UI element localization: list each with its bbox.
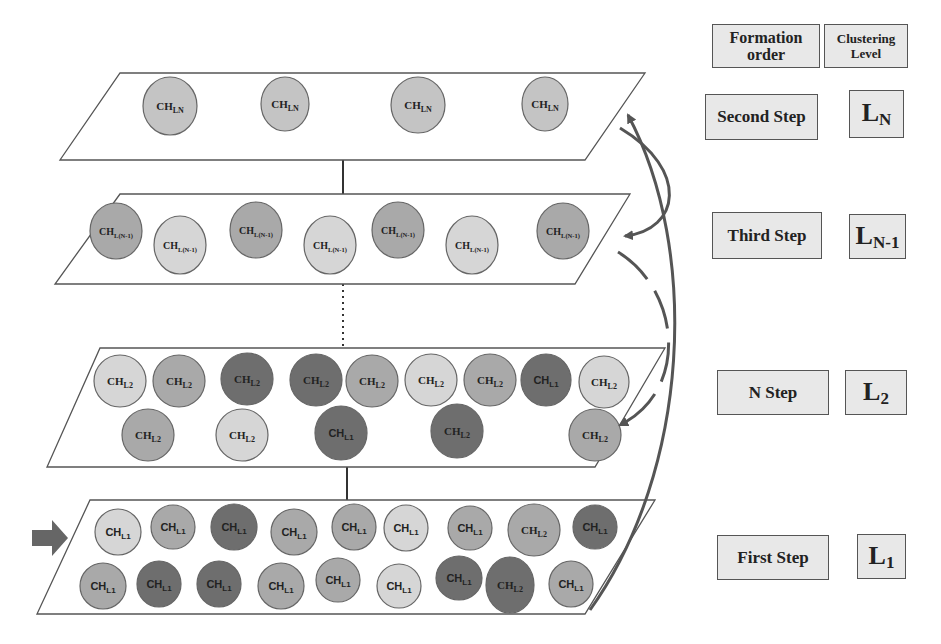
cluster-head-node: CHLN bbox=[391, 77, 445, 133]
cluster-head-node: CHL2 bbox=[346, 355, 398, 407]
step-box-first: First Step bbox=[717, 535, 829, 580]
cluster-head-node: CHL(N-1) bbox=[90, 203, 142, 259]
cluster-head-node: CHL1 bbox=[573, 505, 617, 549]
cluster-layers: CHLNCHLNCHLNCHLNCHL(N-1)CHL(N-1)CHL(N-1)… bbox=[37, 73, 665, 614]
cluster-head-node: CHL1 bbox=[332, 504, 376, 550]
cluster-head-node: CHL2 bbox=[122, 409, 174, 461]
cluster-head-node: CHL1 bbox=[384, 505, 428, 551]
arrow-second-to-third-icon bbox=[620, 128, 669, 236]
cluster-head-node: CHL2 bbox=[153, 355, 205, 407]
layer-L1: CHL1CHL1CHL1CHL1CHL1CHL1CHL1CHL2CHL1CHL1… bbox=[37, 500, 655, 614]
cluster-head-node: CHL(N-1) bbox=[230, 202, 282, 258]
step-box-n: N Step bbox=[717, 370, 829, 415]
cluster-head-node: CHL2 bbox=[94, 355, 146, 407]
cluster-head-node: CHL1 bbox=[448, 506, 492, 550]
cluster-head-node: CHL2 bbox=[290, 354, 342, 406]
formation-order-header: Formation order bbox=[712, 24, 820, 68]
cluster-head-node: CHL2 bbox=[431, 404, 483, 458]
cluster-head-node: CHL2 bbox=[569, 409, 621, 461]
cluster-head-node: CHL1 bbox=[436, 556, 482, 600]
level-label: LN bbox=[862, 98, 892, 130]
cluster-head-node: CHL1 bbox=[521, 354, 571, 406]
step-label: N Step bbox=[749, 383, 798, 403]
cluster-head-node: CHLN bbox=[143, 77, 197, 135]
level-label: L2 bbox=[863, 377, 889, 409]
cluster-head-node: CHL1 bbox=[95, 509, 141, 555]
step-label: Second Step bbox=[717, 107, 805, 127]
level-box-l1: L1 bbox=[857, 534, 906, 579]
cluster-head-node: CHL2 bbox=[216, 409, 268, 461]
input-arrow-icon bbox=[32, 520, 68, 556]
cluster-head-node: CHL(N-1) bbox=[304, 216, 356, 274]
cluster-head-node: CHL(N-1) bbox=[446, 216, 498, 274]
cluster-head-node: CHL1 bbox=[377, 564, 421, 608]
cluster-head-node: CHL1 bbox=[211, 504, 257, 550]
cluster-head-node: CHL2 bbox=[405, 354, 457, 406]
layer-LN: CHLNCHLNCHLNCHLN bbox=[60, 73, 645, 160]
cluster-head-node: CHL(N-1) bbox=[372, 202, 424, 258]
cluster-head-node: CHL(N-1) bbox=[537, 203, 589, 259]
step-box-third: Third Step bbox=[712, 212, 822, 259]
cluster-head-node: CHL1 bbox=[197, 561, 241, 607]
clustering-level-label: Clustering Level bbox=[825, 31, 907, 61]
step-box-second: Second Step bbox=[705, 94, 818, 140]
cluster-head-node: CHL2 bbox=[579, 356, 629, 408]
level-label: L1 bbox=[869, 541, 895, 573]
cluster-head-node: CHL1 bbox=[151, 505, 195, 549]
cluster-head-node: CHL1 bbox=[315, 406, 367, 460]
clustering-level-header: Clustering Level bbox=[824, 24, 908, 68]
cluster-head-node: CHL1 bbox=[549, 561, 593, 607]
cluster-head-node: CHLN bbox=[522, 77, 568, 131]
cluster-head-node: CHL2 bbox=[464, 354, 516, 406]
formation-order-label: Formation order bbox=[713, 29, 819, 63]
cluster-head-node: CHL1 bbox=[271, 509, 317, 555]
cluster-head-node: CHL2 bbox=[508, 504, 560, 556]
cluster-head-node: CHL2 bbox=[221, 353, 273, 405]
level-box-l2: L2 bbox=[845, 370, 907, 415]
cluster-head-node: CHL2 bbox=[486, 557, 534, 613]
step-label: First Step bbox=[737, 548, 808, 568]
cluster-head-node: CHL1 bbox=[137, 561, 181, 607]
cluster-head-node: CHL(N-1) bbox=[154, 216, 206, 274]
level-box-ln-1: LN-1 bbox=[849, 214, 906, 259]
level-box-ln: LN bbox=[849, 90, 904, 138]
cluster-head-node: CHL1 bbox=[316, 558, 360, 602]
level-label: LN-1 bbox=[856, 221, 900, 253]
cluster-head-node: CHL1 bbox=[258, 563, 304, 609]
cluster-head-node: CHLN bbox=[261, 77, 309, 131]
step-label: Third Step bbox=[728, 226, 807, 246]
cluster-head-node: CHL1 bbox=[80, 563, 126, 609]
layer-L2: CHL2CHL2CHL2CHL2CHL2CHL2CHL2CHL1CHL2CHL2… bbox=[47, 348, 665, 467]
layer-LN-1: CHL(N-1)CHL(N-1)CHL(N-1)CHL(N-1)CHL(N-1)… bbox=[55, 194, 630, 284]
